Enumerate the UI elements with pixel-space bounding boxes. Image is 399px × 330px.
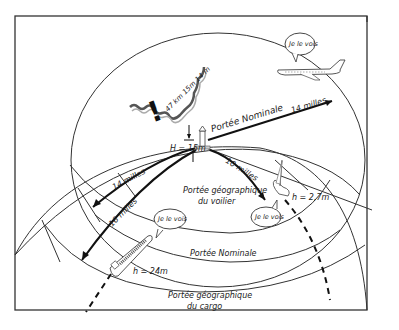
bubble-tail [292, 53, 298, 62]
arrow-14-milles [93, 148, 196, 207]
sailboat-height-label: h = 2,7m [292, 193, 330, 202]
nominal-range-bottom-label: Portée Nominale [190, 248, 257, 258]
nominal-range-top-label: Portée Nominale [210, 102, 285, 134]
cargo-height-label: h = 24m [133, 267, 168, 276]
nominal-range-distance-label: 14 milles [290, 96, 327, 115]
airplane-icon [278, 60, 345, 80]
earth-surface-arc [15, 149, 360, 255]
sailboat-geo-range-label-1: Portée géographique [183, 185, 267, 195]
airplane-bubble-text: Je le vois [287, 40, 318, 48]
lighthouse-height-label: H = 15m [170, 144, 206, 153]
sailboat-sightline-dashed [285, 200, 330, 300]
earth-surface-arc-right [260, 148, 367, 310]
arrowhead-icon [93, 199, 101, 207]
cargo-geo-range-label-1: Portée géographique [168, 290, 252, 300]
coastline [130, 67, 206, 123]
frame-border [15, 16, 367, 310]
bubble-tail [272, 200, 277, 209]
cargo-sightline-dashed [86, 274, 111, 312]
sailboat-distance-label: 10 milles [224, 156, 260, 183]
arrowhead-icon [187, 134, 191, 139]
cargo-geo-range-label-2: du cargo [187, 302, 222, 311]
sailboat-geo-range-label-2: du voilier [198, 197, 236, 206]
sailboat-bubble-text: Je le vois [253, 213, 284, 221]
range-diagram: ! 47 km 15m 14 m H = 15m Portée Nominale… [0, 0, 399, 330]
left-arrow-lower-label: 16 milles [107, 196, 139, 228]
cargo-geo-range-arc [45, 225, 365, 292]
